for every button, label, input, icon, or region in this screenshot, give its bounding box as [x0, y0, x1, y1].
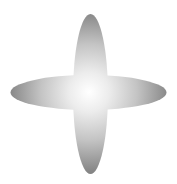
four-point-star-icon	[0, 0, 177, 184]
star-figure	[0, 0, 177, 184]
vertical-petal	[73, 14, 108, 174]
